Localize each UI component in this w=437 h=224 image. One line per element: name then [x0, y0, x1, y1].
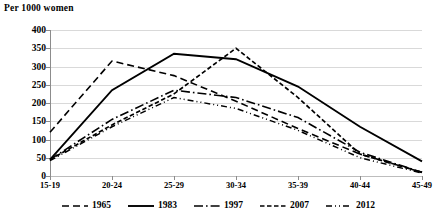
series-line-2007 [50, 48, 422, 172]
legend-item-1997[interactable]: 1997 [194, 201, 243, 211]
legend-swatch-icon [128, 201, 154, 211]
legend-item-2007[interactable]: 2007 [260, 201, 309, 211]
x-axis-tick-label: 40-44 [350, 180, 370, 190]
legend-label: 1965 [92, 201, 111, 211]
y-axis-tick-label: 150 [32, 116, 46, 126]
y-axis-tick-label: 50 [37, 153, 47, 163]
legend-item-2012[interactable]: 2012 [326, 201, 375, 211]
y-axis-title: Per 1000 women [4, 3, 74, 13]
legend-label: 2012 [356, 201, 375, 211]
x-axis-tick-label: 35-39 [288, 180, 308, 190]
plot-area [50, 30, 422, 176]
y-axis-tick-label: 350 [32, 43, 46, 53]
legend-item-1983[interactable]: 1983 [128, 201, 177, 211]
x-axis-tick-label: 20-24 [102, 180, 122, 190]
legend-swatch-icon [62, 201, 88, 211]
chart-legend: 19651983199720072012 [0, 196, 437, 216]
y-axis-tick-label: 100 [32, 135, 46, 145]
series-line-2012 [50, 98, 422, 174]
legend-label: 2007 [290, 201, 309, 211]
x-axis-tick-label: 30-34 [226, 180, 246, 190]
x-axis-tick-label: 15-19 [40, 180, 60, 190]
legend-item-1965[interactable]: 1965 [62, 201, 111, 211]
line-chart: Per 1000 women 050100150200250300350400 … [0, 0, 437, 224]
y-axis-tick-label: 400 [32, 25, 46, 35]
x-axis-tick-label: 25-29 [164, 180, 184, 190]
x-axis-labels: 15-1920-2425-2930-3435-3940-4445-49 [50, 180, 422, 194]
y-axis-tick-label: 300 [32, 62, 46, 72]
legend-label: 1983 [158, 201, 177, 211]
series-line-1983 [50, 54, 422, 162]
legend-swatch-icon [326, 201, 352, 211]
y-axis-labels: 050100150200250300350400 [0, 30, 46, 176]
legend-swatch-icon [260, 201, 286, 211]
y-axis-tick-label: 200 [32, 98, 46, 108]
y-axis-tick-label: 250 [32, 80, 46, 90]
legend-label: 1997 [224, 201, 243, 211]
legend-swatch-icon [194, 201, 220, 211]
x-axis-tick-label: 45-49 [412, 180, 432, 190]
series-layer [50, 30, 422, 176]
